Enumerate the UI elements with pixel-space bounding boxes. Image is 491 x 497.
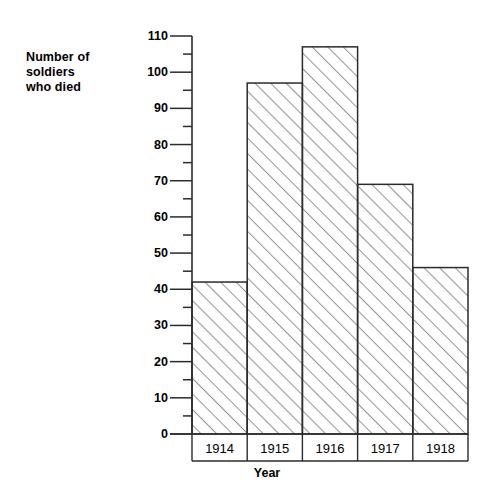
y-tick-label-30: 30 <box>128 319 168 331</box>
x-axis-tick-labels: 19141915191619171918 <box>192 437 468 463</box>
y-tick-label-80: 80 <box>128 139 168 151</box>
bar-chart: Number of soldiers who died 010203040506… <box>0 0 491 497</box>
y-tick-label-70: 70 <box>128 175 168 187</box>
y-tick-label-90: 90 <box>128 102 168 114</box>
y-tick-label-40: 40 <box>128 283 168 295</box>
x-tick-label-1916: 1916 <box>302 437 357 463</box>
x-tick-label-1918: 1918 <box>413 437 468 463</box>
bar-1917 <box>358 184 413 434</box>
x-tick-label-1914: 1914 <box>192 437 247 463</box>
y-tick-label-110: 110 <box>128 30 168 42</box>
y-tick-label-0: 0 <box>128 428 168 440</box>
y-tick-label-60: 60 <box>128 211 168 223</box>
y-tick-label-50: 50 <box>128 247 168 259</box>
y-axis-title: Number of soldiers who died <box>26 50 126 95</box>
bar-1915 <box>247 83 302 434</box>
x-tick-label-1917: 1917 <box>358 437 413 463</box>
x-tick-label-1915: 1915 <box>247 437 302 463</box>
y-tick-label-20: 20 <box>128 356 168 368</box>
x-axis-title: Year <box>192 466 342 480</box>
bars-group <box>192 47 468 434</box>
bar-1916 <box>302 47 357 434</box>
y-axis-tick-labels: 0102030405060708090100110 <box>123 0 168 497</box>
y-tick-label-10: 10 <box>128 392 168 404</box>
bar-1914 <box>192 282 247 434</box>
y-tick-label-100: 100 <box>128 66 168 78</box>
bar-1918 <box>413 268 468 434</box>
